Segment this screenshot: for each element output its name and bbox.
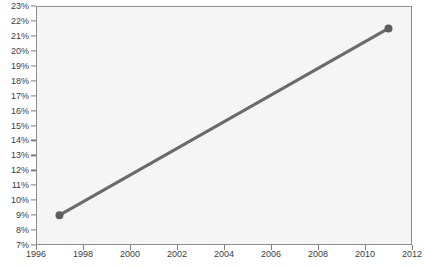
data-point-marker — [385, 24, 393, 32]
series-line — [60, 28, 389, 215]
series-layer — [0, 0, 424, 268]
data-point-marker — [56, 211, 64, 219]
line-chart: 10 YEARS OF MM ACHIEVEMENT 7%8%9%10%11%1… — [0, 0, 424, 268]
